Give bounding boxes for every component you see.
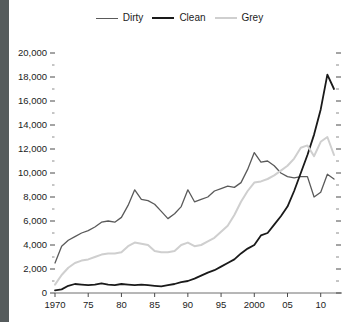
x-tick-label: 05 bbox=[282, 299, 293, 310]
x-tick-label: 85 bbox=[149, 299, 160, 310]
data-series-group bbox=[55, 75, 334, 291]
y-tick-label: 12,000 bbox=[18, 143, 47, 154]
chart-canvas: 02,0004,0006,0008,00010,00012,00014,0001… bbox=[9, 0, 350, 322]
y-tick-label: 8,000 bbox=[23, 191, 47, 202]
y-tick-label: 20,000 bbox=[18, 47, 47, 58]
left-edge-bar bbox=[0, 0, 9, 322]
y-tick-label: 6,000 bbox=[23, 215, 47, 226]
y-tick-label: 10,000 bbox=[18, 167, 47, 178]
x-tick-label: 75 bbox=[83, 299, 94, 310]
series-line-grey bbox=[55, 137, 334, 285]
x-tick-label: 2000 bbox=[244, 299, 265, 310]
x-tick-label: 10 bbox=[315, 299, 326, 310]
y-tick-label: 14,000 bbox=[18, 119, 47, 130]
y-tick-label: 0 bbox=[42, 287, 47, 298]
line-chart: Dirty Clean Grey 02,0004,0006,0008,00010… bbox=[9, 0, 350, 322]
y-tick-label: 2,000 bbox=[23, 263, 47, 274]
plot-area: 02,0004,0006,0008,00010,00012,00014,0001… bbox=[9, 0, 350, 322]
y-tick-label: 4,000 bbox=[23, 239, 47, 250]
x-axis bbox=[55, 293, 342, 297]
y-axis-ticks bbox=[50, 53, 55, 293]
x-tick-label: 80 bbox=[116, 299, 127, 310]
series-line-clean bbox=[55, 75, 334, 291]
x-axis-labels: 1970758085909520000510 bbox=[44, 299, 326, 310]
y-axis-labels: 02,0004,0006,0008,00010,00012,00014,0001… bbox=[18, 47, 47, 298]
right-axis-ticks bbox=[336, 53, 341, 293]
y-tick-label: 16,000 bbox=[18, 95, 47, 106]
x-tick-label: 1970 bbox=[44, 299, 65, 310]
x-tick-label: 90 bbox=[183, 299, 194, 310]
x-tick-label: 95 bbox=[216, 299, 227, 310]
y-tick-label: 18,000 bbox=[18, 71, 47, 82]
